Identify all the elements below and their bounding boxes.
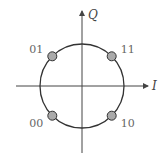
constellation-point-10	[107, 111, 116, 120]
point-label-11: 11	[121, 43, 135, 56]
constellation-point-00	[48, 111, 57, 120]
i-axis-label: I	[151, 79, 157, 93]
point-label-00: 00	[29, 117, 43, 130]
point-label-01: 01	[29, 43, 43, 56]
point-label-10: 10	[121, 117, 135, 130]
q-axis-label: Q	[88, 8, 98, 22]
constellation-point-11	[107, 52, 116, 61]
constellation-diagram: Q I 01110010	[0, 0, 162, 157]
constellation-point-01	[48, 52, 57, 61]
